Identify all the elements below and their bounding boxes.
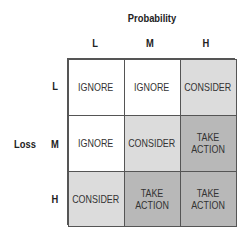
y-axis-title: Loss — [12, 138, 38, 150]
row-header-m: M — [49, 138, 61, 150]
matrix-cell: TAKE ACTION — [124, 171, 181, 227]
risk-matrix: IGNORE IGNORE CONSIDER IGNORE CONSIDER T… — [67, 58, 235, 225]
column-header-m: M — [142, 37, 159, 49]
matrix-cell: TAKE ACTION — [180, 115, 237, 172]
row-header-h: H — [49, 193, 61, 205]
matrix-cell: CONSIDER — [68, 171, 125, 227]
matrix-cell: CONSIDER — [124, 115, 181, 172]
row-header-l: L — [49, 80, 61, 92]
column-header-l: L — [87, 37, 104, 49]
matrix-cell: CONSIDER — [180, 59, 237, 116]
column-header-h: H — [198, 37, 215, 49]
x-axis-title: Probability — [125, 12, 179, 24]
matrix-cell: IGNORE — [68, 115, 125, 172]
matrix-cell: IGNORE — [68, 59, 125, 116]
matrix-cell: TAKE ACTION — [180, 171, 237, 227]
matrix-cell: IGNORE — [124, 59, 181, 116]
